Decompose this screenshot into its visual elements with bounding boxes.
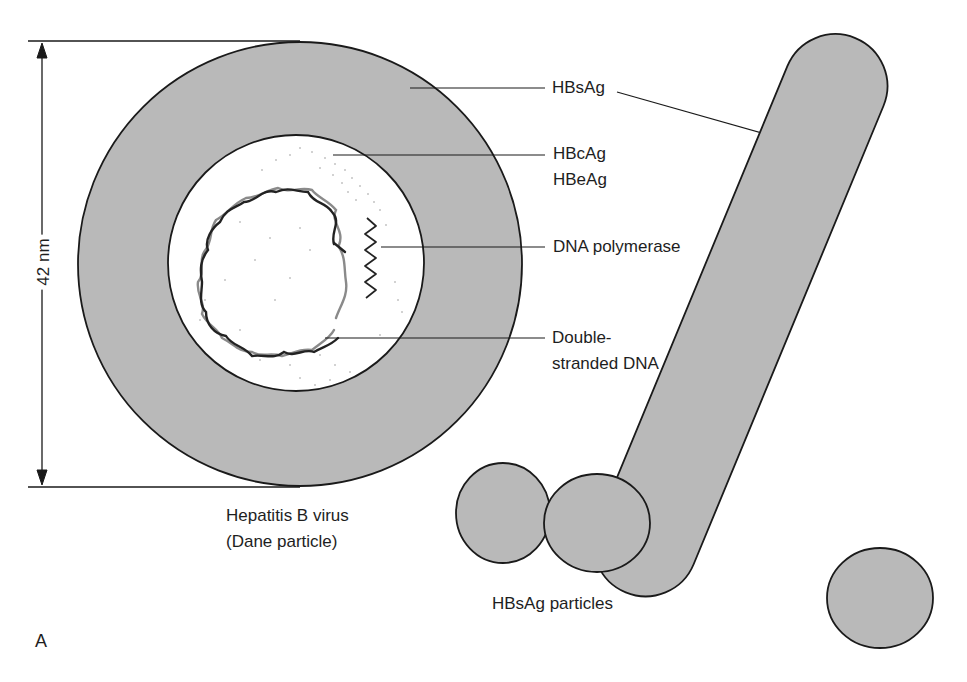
- hbsag-sphere-3: [827, 548, 933, 648]
- label-hbeag: HBeAg: [553, 169, 607, 191]
- panel-letter: A: [35, 630, 47, 652]
- dane-particle: [78, 42, 522, 486]
- virus-caption-line1: Hepatitis B virus: [226, 505, 349, 527]
- label-dsdna-line2: stranded DNA: [552, 353, 659, 375]
- hepatitis-b-diagram: 42 nm HBsAg HBcAg HBeAg DNA polymerase D…: [0, 0, 967, 682]
- label-hbcag: HBcAg: [553, 143, 606, 165]
- dimension-label: 42 nm: [34, 234, 54, 289]
- hbsag-sphere-2: [544, 474, 650, 572]
- label-dna-polymerase: DNA polymerase: [553, 236, 681, 258]
- hbsag-sphere-1: [456, 463, 550, 563]
- diagram-graphics: [0, 0, 967, 682]
- label-dsdna-line1: Double-: [552, 327, 612, 349]
- particles-caption: HBsAg particles: [492, 593, 613, 615]
- label-hbsag: HBsAg: [552, 77, 605, 99]
- virus-caption-line2: (Dane particle): [226, 531, 338, 553]
